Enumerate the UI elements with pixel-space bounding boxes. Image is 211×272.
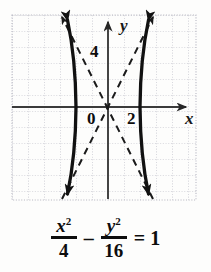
hyperbola-graph-svg — [0, 0, 211, 205]
numerator-x-exponent: 2 — [66, 215, 72, 227]
numerator-x-variable: x — [56, 215, 66, 236]
equation-right-hand-side: = 1 — [132, 227, 160, 250]
y-axis-label: y — [120, 17, 127, 34]
equation-term-x-squared-over-4: x2 4 — [51, 216, 77, 260]
graph-plot-area: y x 4 0 2 — [0, 0, 211, 205]
equation-term-y-squared-over-16: y2 16 — [101, 216, 127, 260]
x-axis-label: x — [185, 110, 193, 127]
minus-operator: – — [82, 227, 96, 250]
numerator-y-variable: y — [107, 215, 115, 236]
figure-container: y x 4 0 2 x2 4 – y2 16 = 1 x²/4 − y²/16 … — [0, 0, 211, 272]
hyperbola-equation: x2 4 – y2 16 = 1 — [0, 208, 211, 268]
denominator-16: 16 — [104, 239, 123, 260]
numerator-y-squared: y2 — [104, 216, 124, 236]
origin-label: 0 — [87, 110, 96, 127]
denominator-4: 4 — [59, 239, 69, 260]
y-axis-tick-label-4: 4 — [90, 43, 99, 60]
numerator-y-exponent: 2 — [115, 215, 121, 227]
x-axis-tick-label-2: 2 — [127, 110, 136, 127]
numerator-x-squared: x2 — [53, 216, 74, 236]
